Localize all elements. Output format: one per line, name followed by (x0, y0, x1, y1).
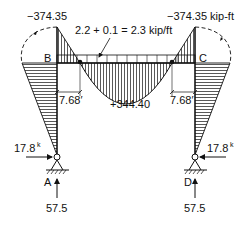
reaction-unit-left: k (37, 141, 41, 148)
distributed-load-band (57, 55, 195, 63)
reaction-label-horizontal-left: 17.8 (14, 142, 35, 154)
dimension-left (55, 64, 82, 96)
reaction-label-vertical-left: 57.5 (46, 202, 67, 214)
inflection-point-left (78, 60, 83, 65)
moment-label-midspan: +344.40 (110, 98, 150, 110)
joint-label-d: D (184, 176, 192, 188)
dimension-label-left: 7.68′ (59, 94, 82, 106)
arrow-arc-left-icon (33, 31, 37, 35)
arrow-arc-right-icon (220, 37, 223, 41)
moment-label-left: −374.35 (27, 10, 67, 22)
moment-label-right: −374.35 kip-ft (167, 10, 234, 22)
inflection-point-right (170, 60, 175, 65)
reaction-label-horizontal-right: 17.8 (207, 142, 228, 154)
joint-label-a: A (44, 176, 52, 188)
moment-arc-left (21, 27, 57, 63)
joint-label-c: C (199, 52, 207, 64)
frame-moment-diagram: −374.35 −374.35 kip-ft 2.2 + 0.1 = 2.3 k… (0, 0, 247, 228)
load-leader (99, 38, 110, 57)
dimension-right (170, 64, 197, 96)
reaction-label-vertical-right: 57.5 (184, 202, 205, 214)
joint-label-b: B (44, 52, 51, 64)
reaction-unit-right: k (230, 141, 234, 148)
dimension-label-right: 7.68′ (170, 94, 193, 106)
load-label: 2.2 + 0.1 = 2.3 kip/ft (75, 24, 172, 36)
